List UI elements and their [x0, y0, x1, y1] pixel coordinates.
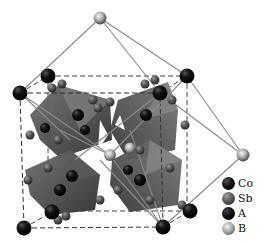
legend-item-co: Co	[222, 176, 253, 191]
legend: Co Sb A B	[222, 176, 253, 236]
legend-label: Co	[238, 177, 253, 190]
legend-label: Sb	[238, 192, 253, 205]
legend-item-a: A	[222, 206, 253, 221]
legend-item-sb: Sb	[222, 191, 253, 206]
sb-atom-icon	[222, 192, 235, 205]
crystal-structure-figure: Co Sb A B	[0, 0, 264, 244]
legend-label: B	[238, 222, 246, 235]
a-atom-icon	[222, 207, 235, 220]
b-atom-icon	[222, 222, 235, 235]
legend-item-b: B	[222, 221, 253, 236]
co-atom-icon	[222, 177, 235, 190]
legend-label: A	[238, 207, 246, 220]
octahedra	[25, 82, 182, 215]
